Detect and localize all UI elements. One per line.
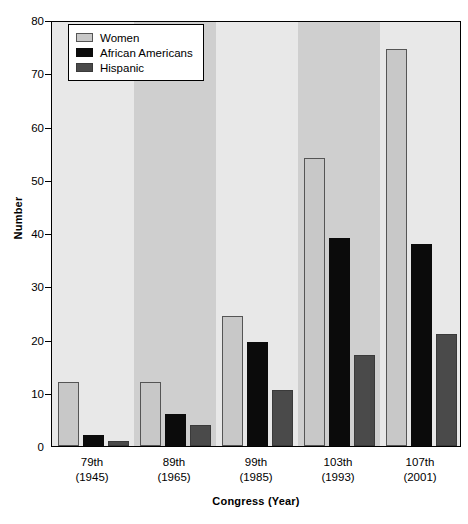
legend-item: African Americans xyxy=(76,45,193,60)
congress-year: (1965) xyxy=(133,470,215,485)
legend-swatch-african xyxy=(76,48,93,57)
legend-item: Women xyxy=(76,30,193,45)
legend-item: Hispanic xyxy=(76,60,193,75)
congress-number: 79th xyxy=(51,455,133,470)
bar-women xyxy=(304,158,325,446)
bar-african xyxy=(83,435,104,446)
congress-number: 107th xyxy=(379,455,461,470)
congress-year: (1985) xyxy=(215,470,297,485)
legend-swatch-women xyxy=(76,33,93,42)
legend-swatch-hispanic xyxy=(76,63,93,72)
congress-year: (2001) xyxy=(379,470,461,485)
legend: WomenAfrican AmericansHispanic xyxy=(68,24,204,81)
bar-hispanic xyxy=(436,334,457,446)
y-tick-label: 0 xyxy=(0,441,44,453)
legend-label: Women xyxy=(100,32,139,44)
bar-women xyxy=(58,382,79,446)
bar-hispanic xyxy=(108,441,129,446)
y-axis-title: Number xyxy=(12,178,24,258)
y-tick-label: 10 xyxy=(0,388,44,400)
y-tick-label: 20 xyxy=(0,335,44,347)
y-tick-label: 80 xyxy=(0,15,44,27)
x-axis-group-label: 107th(2001) xyxy=(379,455,461,485)
bar-women xyxy=(386,49,407,446)
x-axis-group-label: 79th(1945) xyxy=(51,455,133,485)
congress-year: (1993) xyxy=(297,470,379,485)
bar-women xyxy=(222,316,243,446)
y-tick-label: 40 xyxy=(0,228,44,240)
bar-chart: Number 01020304050607080 WomenAfrican Am… xyxy=(0,0,468,524)
plot-area xyxy=(51,21,461,447)
x-axis-group-label: 89th(1965) xyxy=(133,455,215,485)
bar-african xyxy=(411,244,432,446)
bar-hispanic xyxy=(272,390,293,446)
bar-african xyxy=(165,414,186,446)
y-tick-label: 70 xyxy=(0,68,44,80)
bar-african xyxy=(329,238,350,446)
bar-women xyxy=(140,382,161,446)
bar-african xyxy=(247,342,268,446)
congress-number: 99th xyxy=(215,455,297,470)
x-axis-title: Congress (Year) xyxy=(51,495,461,507)
y-tick-label: 30 xyxy=(0,281,44,293)
congress-number: 89th xyxy=(133,455,215,470)
legend-label: African Americans xyxy=(100,47,193,59)
y-tick-label: 60 xyxy=(0,122,44,134)
bar-hispanic xyxy=(190,425,211,446)
y-tick-label: 50 xyxy=(0,175,44,187)
legend-label: Hispanic xyxy=(100,62,144,74)
bar-hispanic xyxy=(354,355,375,446)
x-axis-group-label: 103th(1993) xyxy=(297,455,379,485)
congress-number: 103th xyxy=(297,455,379,470)
congress-year: (1945) xyxy=(51,470,133,485)
x-axis-group-label: 99th(1985) xyxy=(215,455,297,485)
